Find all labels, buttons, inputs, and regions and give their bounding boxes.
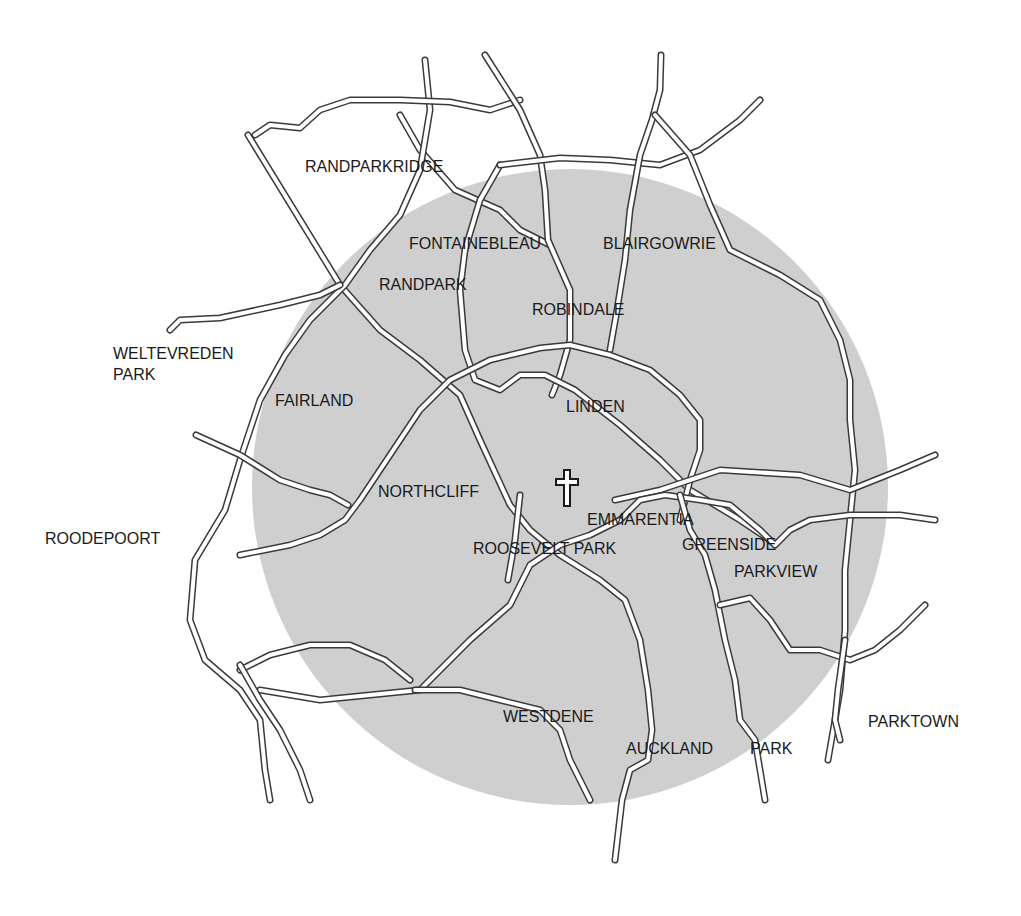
label-weltevreden-park-line2: PARK [113, 366, 155, 384]
label-linden: LINDEN [566, 398, 625, 416]
map-graphic [0, 0, 1021, 916]
label-parkview: PARKVIEW [734, 563, 817, 581]
label-auckland: AUCKLAND [626, 740, 713, 758]
label-roodepoort: ROODEPOORT [45, 530, 160, 548]
label-roosevelt-park: ROOSEVELT PARK [473, 540, 616, 558]
label-randpark: RANDPARK [379, 276, 467, 294]
church-cross-icon [554, 468, 580, 508]
label-northcliff: NORTHCLIFF [378, 483, 479, 501]
label-blairgowrie: BLAIRGOWRIE [603, 235, 716, 253]
label-westdene: WESTDENE [503, 708, 594, 726]
label-parktown: PARKTOWN [868, 713, 959, 731]
map-canvas: RANDPARKRIDGE FONTAINEBLEAU BLAIRGOWRIE … [0, 0, 1021, 916]
label-fontainebleau: FONTAINEBLEAU [409, 235, 541, 253]
label-emmarentia: EMMARENTIA [587, 511, 694, 529]
label-randparkridge: RANDPARKRIDGE [305, 158, 443, 176]
label-fairland: FAIRLAND [275, 392, 353, 410]
label-robindale: ROBINDALE [532, 301, 624, 319]
label-auckland-park: PARK [750, 740, 792, 758]
label-weltevreden-park-line1: WELTEVREDEN [113, 345, 234, 363]
label-greenside: GREENSIDE [682, 536, 776, 554]
